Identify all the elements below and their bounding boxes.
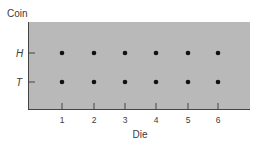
plot-area <box>28 22 250 109</box>
data-point-h-1 <box>60 51 65 56</box>
data-point-t-2 <box>92 80 97 85</box>
x-tick-label-6: 6 <box>216 115 221 125</box>
data-point-t-1 <box>60 80 65 85</box>
x-tick-label-5: 5 <box>186 115 191 125</box>
x-axis-label: Die <box>132 129 147 140</box>
y-axis-label: Coin <box>7 8 28 19</box>
x-tick-label-3: 3 <box>123 115 128 125</box>
y-tick-label-t: T <box>16 77 23 88</box>
data-point-t-4 <box>154 80 159 85</box>
data-point-h-4 <box>154 51 159 56</box>
data-point-t-5 <box>186 80 191 85</box>
x-tick-label-4: 4 <box>154 115 159 125</box>
y-tick-label-h: H <box>16 48 24 59</box>
data-point-h-5 <box>186 51 191 56</box>
data-point-h-2 <box>92 51 97 56</box>
data-point-t-3 <box>123 80 128 85</box>
x-tick-label-1: 1 <box>60 115 65 125</box>
data-point-h-3 <box>123 51 128 56</box>
data-point-t-6 <box>216 80 221 85</box>
sample-space-chart: Coin H T 1 2 3 4 5 6 Die <box>0 0 260 145</box>
x-tick-label-2: 2 <box>92 115 97 125</box>
data-point-h-6 <box>216 51 221 56</box>
